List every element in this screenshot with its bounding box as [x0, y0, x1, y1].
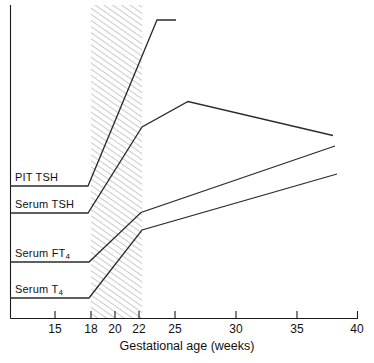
- x-tick-label-22: 22: [124, 322, 154, 336]
- x-tick-label-30: 30: [221, 322, 251, 336]
- series-label-serum-ft4-text: Serum FT: [15, 247, 66, 259]
- x-tick-label-15: 15: [40, 322, 70, 336]
- series-label-serum-tsh: Serum TSH: [15, 198, 74, 210]
- x-tick-label-35: 35: [282, 322, 312, 336]
- series-line-serum-tsh: [11, 102, 334, 214]
- series-label-serum-t4: Serum T4: [15, 283, 63, 297]
- chart-figure: PIT TSH Serum TSH Serum FT4 Serum T4 15 …: [0, 0, 374, 363]
- series-label-serum-t4-text: Serum T: [15, 283, 58, 295]
- series-label-serum-ft4-subscript: 4: [66, 252, 71, 261]
- series-line-serum-t4: [11, 174, 338, 298]
- series-label-pit-tsh: PIT TSH: [15, 171, 58, 183]
- series-label-serum-t4-subscript: 4: [58, 288, 63, 297]
- x-tick-label-25: 25: [160, 322, 190, 336]
- x-axis-title: Gestational age (weeks): [0, 339, 374, 353]
- x-tick-label-40: 40: [342, 322, 372, 336]
- series-label-serum-ft4: Serum FT4: [15, 247, 70, 261]
